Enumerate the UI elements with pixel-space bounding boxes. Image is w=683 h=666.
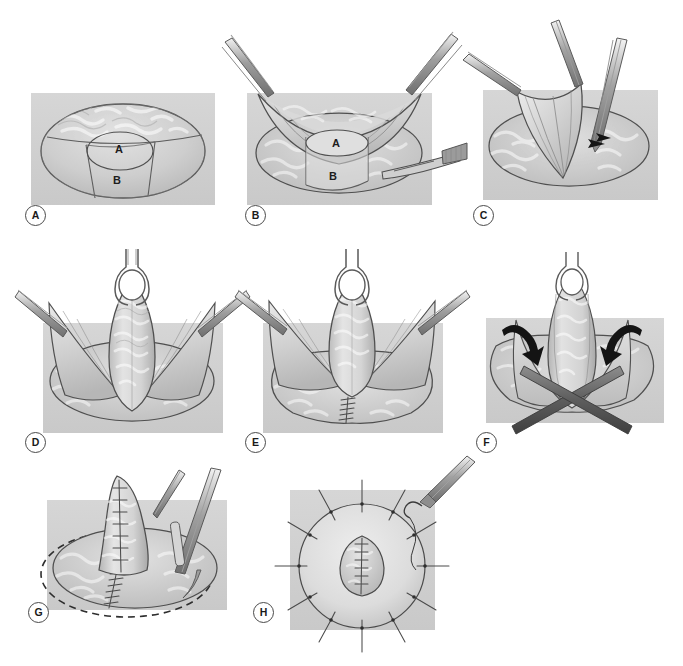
figure-sheet: A B A (0, 0, 683, 666)
panel-e-artwork (235, 245, 470, 440)
panel-g (25, 462, 250, 647)
panel-b-artwork (222, 25, 467, 230)
curved-needle-h (404, 502, 422, 518)
forceps-left-b (222, 35, 274, 101)
panel-b: A B (222, 25, 467, 230)
forceps-top-c (551, 20, 583, 87)
panel-label-g: G (28, 602, 49, 623)
forceps-left-e (235, 290, 287, 335)
forceps-left-c (463, 52, 521, 96)
panel-h-artwork (250, 462, 480, 657)
panel-label-c: C (473, 205, 494, 226)
panel-label-d: D (25, 432, 46, 453)
panel-label-b: B (245, 205, 266, 226)
panel-label-e: E (245, 432, 266, 453)
panel-d-artwork (15, 245, 250, 440)
panel-c-artwork (455, 18, 683, 230)
panel-f (468, 250, 683, 440)
panel-label-f: F (476, 432, 497, 453)
panel-d (15, 245, 250, 440)
forceps-g (153, 470, 185, 518)
forceps-left-d (15, 290, 67, 337)
panel-e (235, 245, 470, 440)
panel-f-artwork (468, 250, 683, 440)
panel-h (250, 462, 480, 657)
forceps-right-b (406, 32, 462, 100)
panel-g-artwork (25, 462, 250, 647)
panel-c (455, 18, 683, 230)
needle-holder-h (420, 456, 475, 508)
ring-retractor-d (115, 249, 149, 305)
panel-label-a: A (25, 205, 46, 226)
panel-label-h: H (253, 602, 274, 623)
